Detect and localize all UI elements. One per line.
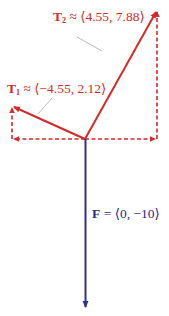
vector-diagram: [0, 0, 169, 316]
t2-components: ⟨4.55, 7.88⟩: [80, 9, 145, 24]
t2-label: T2 ≈ ⟨4.55, 7.88⟩: [53, 10, 145, 25]
t2-leader-line: [77, 37, 102, 51]
t2-relation: ≈: [69, 9, 76, 24]
t2-subscript: 2: [62, 16, 66, 25]
component-lines: [12, 12, 157, 139]
vector-t1-arrow: [14, 107, 85, 139]
f-symbol: F: [92, 206, 100, 221]
f-relation: =: [104, 206, 112, 221]
t1-leader-line: [38, 98, 52, 114]
t1-relation: ≈: [23, 81, 30, 96]
t1-symbol: T: [7, 81, 16, 96]
t1-label: T1 ≈ ⟨−4.55, 2.12⟩: [7, 82, 106, 97]
f-components: ⟨0, −10⟩: [115, 206, 160, 221]
t2-symbol: T: [53, 9, 62, 24]
vector-t2-arrow: [85, 12, 156, 139]
f-label: F = ⟨0, −10⟩: [92, 207, 160, 221]
t1-subscript: 1: [16, 88, 20, 97]
t1-components: ⟨−4.55, 2.12⟩: [34, 81, 106, 96]
